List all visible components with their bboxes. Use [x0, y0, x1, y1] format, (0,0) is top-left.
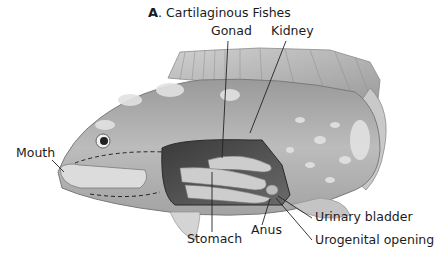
label-anus: Anus — [251, 223, 282, 237]
fish-anatomy-diagram: A. Cartilaginous Fishes Gonad Kidney Mou… — [0, 0, 436, 260]
label-kidney: Kidney — [271, 24, 314, 38]
label-gonad: Gonad — [211, 24, 252, 38]
title-letter: A — [148, 5, 158, 20]
figure-title: A. Cartilaginous Fishes — [148, 5, 291, 20]
label-stomach: Stomach — [187, 232, 242, 246]
title-text: . Cartilaginous Fishes — [158, 5, 291, 20]
label-mouth: Mouth — [16, 146, 55, 160]
label-urogenital-opening: Urogenital opening — [315, 233, 434, 247]
label-urinary-bladder: Urinary bladder — [315, 210, 413, 224]
